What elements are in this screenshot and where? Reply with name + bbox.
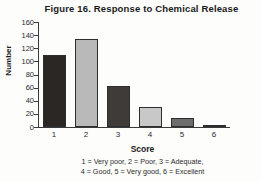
x-axis-line <box>38 127 230 128</box>
page-title: Figure 16. Response to Chemical Release <box>0 3 261 14</box>
x-axis-tick-label: 3 <box>108 130 128 139</box>
y-axis-tick-label: 80 <box>0 71 34 78</box>
y-axis-tick-labels: 020406080100120140160 <box>0 22 34 128</box>
y-axis-tick-label: 20 <box>0 110 34 117</box>
bar-4 <box>139 107 162 127</box>
y-axis-tick <box>34 48 38 49</box>
bar-6 <box>203 125 226 127</box>
bar-1 <box>43 55 66 127</box>
x-axis-tick-label: 5 <box>172 130 192 139</box>
y-axis-tick-label: 160 <box>0 19 34 26</box>
legend-line-2: 4 = Good, 5 = Very good, 6 = Excellent <box>0 167 261 176</box>
bar-2 <box>75 39 98 127</box>
x-axis-tick-labels: 123456 <box>38 130 230 141</box>
figure-container: Figure 16. Response to Chemical Release … <box>0 0 261 182</box>
y-axis-tick-label: 0 <box>0 124 34 131</box>
y-axis-tick <box>34 61 38 62</box>
y-axis-tick-label: 120 <box>0 45 34 52</box>
y-axis-tick-label: 40 <box>0 97 34 104</box>
y-axis-tick <box>34 101 38 102</box>
x-axis-tick-label: 1 <box>44 130 64 139</box>
x-axis-tick-label: 6 <box>204 130 224 139</box>
y-axis-tick <box>34 127 38 128</box>
y-axis-tick <box>34 88 38 89</box>
y-axis-tick-label: 100 <box>0 58 34 65</box>
x-axis-tick-label: 4 <box>140 130 160 139</box>
y-axis-tick <box>34 35 38 36</box>
y-axis-tick <box>34 22 38 23</box>
plot-area <box>38 22 230 128</box>
x-axis-tick-label: 2 <box>76 130 96 139</box>
x-axis-title: Score <box>0 144 261 154</box>
y-axis-tick <box>34 114 38 115</box>
y-axis-tick-label: 140 <box>0 32 34 39</box>
bar-5 <box>171 118 194 127</box>
bar-3 <box>107 86 130 127</box>
y-axis-tick-label: 60 <box>0 84 34 91</box>
legend-line-1: 1 = Very poor, 2 = Poor, 3 = Adequate, <box>0 157 261 166</box>
y-axis-line <box>38 22 39 128</box>
y-axis-tick <box>34 75 38 76</box>
